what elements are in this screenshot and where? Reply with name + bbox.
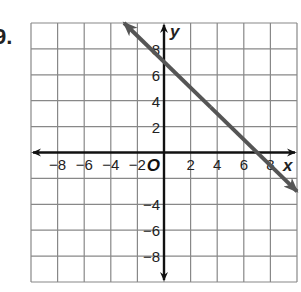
- tick-labels: −8−6−4−224688642−4−6−8Oxy: [49, 22, 294, 265]
- x-tick-label: 4: [213, 156, 221, 173]
- x-tick-label: −4: [102, 156, 119, 173]
- x-tick-label: −8: [49, 156, 66, 173]
- y-tick-label: 2: [152, 119, 160, 136]
- x-tick-label: 2: [186, 156, 194, 173]
- y-tick-label: −6: [143, 222, 160, 239]
- origin-label: O: [147, 156, 160, 175]
- y-tick-label: 4: [152, 93, 160, 110]
- x-axis-label: x: [282, 156, 294, 175]
- y-tick-label: 6: [152, 67, 160, 84]
- y-tick-label: −4: [143, 196, 160, 213]
- y-tick-label: −8: [143, 248, 160, 265]
- x-tick-label: 6: [240, 156, 248, 173]
- x-tick-label: −6: [76, 156, 93, 173]
- x-tick-label: −2: [129, 156, 146, 173]
- y-axis-label: y: [169, 22, 181, 41]
- coordinate-plane: −8−6−4−224688642−4−6−8Oxy: [0, 0, 301, 292]
